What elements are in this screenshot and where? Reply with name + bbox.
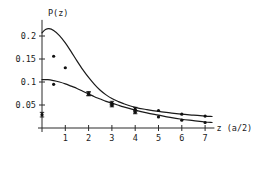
x-tick-label: 4 [133,133,138,143]
chart-figure: 1234567 0.050.10.150.2 P(z) z (a/2) [0,0,257,170]
data-point [157,115,160,118]
plot-area: 1234567 0.050.10.150.2 P(z) z (a/2) [0,0,257,170]
x-tick-label: 3 [109,133,114,143]
y-axis-title: P(z) [48,8,68,18]
data-point [64,66,67,69]
x-tick-label: 6 [179,133,184,143]
data-point [110,104,113,107]
data-curve [42,80,212,123]
data-point [204,114,207,117]
data-curve [42,29,212,117]
y-tick-label: 0.1 [21,77,36,87]
data-point [40,113,43,116]
data-point [180,113,183,116]
y-tick-group: 0.050.10.150.2 [16,31,45,110]
x-axis-title: z (a/2) [216,123,252,133]
y-tick-label: 0.15 [16,54,36,64]
x-tick-label: 7 [203,133,208,143]
curve-group [42,29,212,123]
y-tick-label: 0.2 [21,31,36,41]
x-tick-label: 1 [63,133,68,143]
data-point [157,109,160,112]
data-point [204,121,207,124]
data-point [134,108,137,111]
data-point [180,119,183,122]
data-point [52,83,55,86]
data-point [52,55,55,58]
x-tick-label: 2 [86,133,91,143]
x-tick-label: 5 [156,133,161,143]
data-point [134,111,137,114]
data-point-group [40,55,207,124]
data-point [87,92,90,95]
y-tick-label: 0.05 [16,100,36,110]
